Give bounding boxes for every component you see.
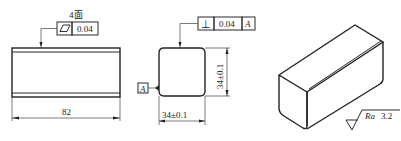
- technical-drawing: 82 4面 0.04 ⊥ 0.04 A A 34±0.1: [0, 0, 401, 141]
- flatness-tolerance-value: 0.04: [77, 24, 93, 34]
- perpendicularity-tolerance-value: 0.04: [219, 19, 235, 29]
- leader-arrow-icon: [179, 42, 182, 48]
- end-view: ⊥ 0.04 A A 34±0.1 34±0.1: [138, 17, 255, 125]
- leader-arrow-icon: [40, 42, 43, 48]
- flatness-leader-line: [41, 29, 57, 46]
- arrowhead-right-icon: [199, 120, 205, 123]
- width-dimension-text: 34±0.1: [162, 110, 187, 120]
- roughness-label: Ra: [364, 111, 375, 121]
- top-face: [279, 25, 383, 92]
- arrowhead-down-icon: [226, 90, 229, 96]
- arrowhead-up-icon: [226, 48, 229, 54]
- roughness-value: 3.2: [381, 111, 392, 121]
- front-view-outline: [12, 48, 120, 97]
- datum-triangle-icon: [155, 85, 159, 91]
- length-dimension-text: 82: [62, 107, 71, 117]
- datum-reference-text: A: [244, 19, 251, 29]
- isometric-view: Ra 3.2: [279, 25, 400, 130]
- datum-a-label: A: [139, 84, 146, 94]
- flatness-symbol-cell: [57, 22, 72, 35]
- end-view-outline: [159, 48, 205, 96]
- perpendicularity-icon: ⊥: [201, 18, 211, 30]
- height-dimension-text: 34±0.1: [215, 64, 225, 89]
- arrowhead-left-icon: [12, 117, 19, 120]
- perpendicularity-leader-line: [180, 24, 198, 46]
- flatness-icon: [60, 25, 70, 32]
- front-view: 82 4面 0.04: [12, 10, 120, 121]
- four-faces-note: 4面: [69, 10, 83, 20]
- arrowhead-right-icon: [113, 117, 120, 120]
